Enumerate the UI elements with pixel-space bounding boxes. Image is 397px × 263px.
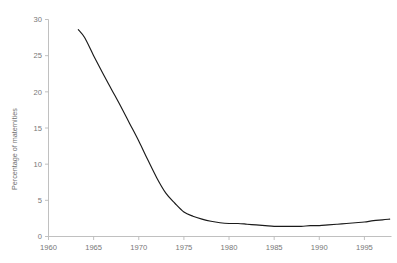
x-tick-label: 1965 <box>85 243 102 252</box>
y-tick-label: 0 <box>38 232 42 241</box>
y-tick-label: 25 <box>34 51 42 60</box>
line-chart-plot: Percentage of maternities 051015202530 1… <box>0 0 397 263</box>
y-tick-label: 5 <box>38 196 42 205</box>
data-series-group <box>78 30 389 227</box>
y-axis-ticks: 051015202530 <box>34 15 49 241</box>
y-tick-label: 30 <box>34 15 42 24</box>
series-line <box>78 30 389 227</box>
x-tick-label: 1990 <box>311 243 328 252</box>
x-tick-label: 1975 <box>175 243 192 252</box>
x-tick-label: 1970 <box>130 243 147 252</box>
y-tick-label: 10 <box>34 160 42 169</box>
x-tick-label: 1995 <box>356 243 373 252</box>
y-axis-label: Percentage of maternities <box>10 108 19 190</box>
x-tick-label: 1960 <box>40 243 57 252</box>
x-tick-label: 1980 <box>221 243 238 252</box>
x-tick-label: 1985 <box>266 243 283 252</box>
y-tick-label: 20 <box>34 88 42 97</box>
y-tick-label: 15 <box>34 124 42 133</box>
chart-container: Percentage of maternities 051015202530 1… <box>0 0 397 263</box>
x-axis-ticks: 19601965197019751980198519901995 <box>40 237 373 252</box>
